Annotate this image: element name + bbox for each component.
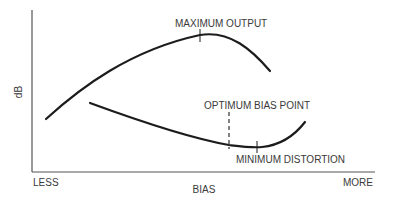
optimum-bias-label: OPTIMUM BIAS POINT (204, 100, 310, 111)
x-more-label: MORE (343, 177, 373, 188)
bias-diagram: dB BIAS LESS MORE MAXIMUM OUTPUT OPTIMUM… (0, 0, 393, 208)
min-distortion-label: MINIMUM DISTORTION (236, 154, 345, 165)
max-output-label: MAXIMUM OUTPUT (175, 18, 267, 29)
y-axis-label: dB (13, 86, 24, 99)
x-less-label: LESS (33, 177, 59, 188)
x-axis-label: BIAS (193, 184, 216, 195)
